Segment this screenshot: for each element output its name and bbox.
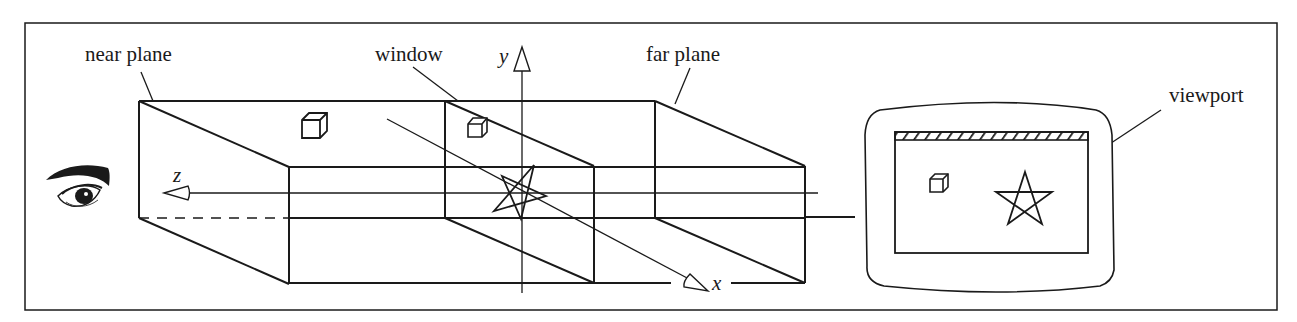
- far-plane-label: far plane: [646, 42, 720, 66]
- eye-icon: [46, 165, 110, 206]
- star-on-window-icon: [494, 165, 546, 219]
- viewport-cube-icon: [930, 174, 948, 192]
- x-axis-label: x: [711, 271, 722, 295]
- viewport-screen: [895, 132, 1088, 253]
- window-leader: [413, 67, 458, 101]
- cube-on-window-icon: [468, 118, 487, 137]
- y-axis-label: y: [497, 44, 509, 68]
- far-plane-leader: [675, 68, 690, 104]
- far-plane: [655, 101, 805, 283]
- view-volume: [139, 101, 855, 283]
- viewport-title-bar: [895, 132, 1088, 140]
- y-axis: [514, 47, 530, 293]
- z-axis: [164, 186, 818, 200]
- viewport-label: viewport: [1169, 83, 1244, 107]
- near-plane-label: near plane: [85, 42, 172, 66]
- viewing-volume-diagram: near plane window far plane viewport: [0, 0, 1297, 322]
- z-axis-label: z: [172, 163, 181, 187]
- cube-icon: [302, 113, 327, 138]
- window-label: window: [375, 42, 444, 66]
- near-plane-leader: [141, 72, 153, 101]
